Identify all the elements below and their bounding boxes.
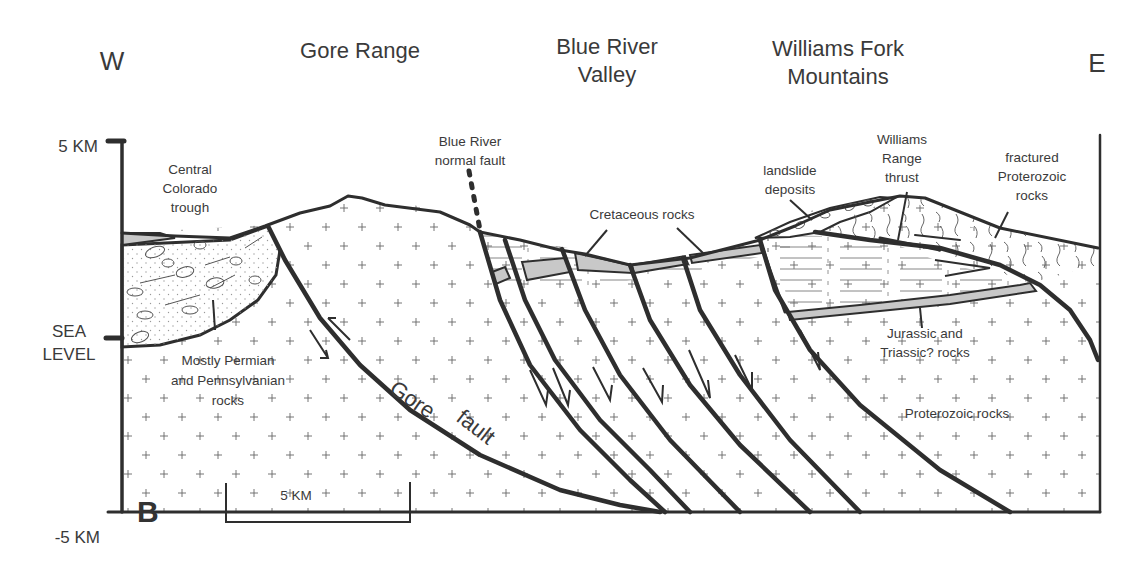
region-blue-river-valley-1: Blue River — [556, 34, 657, 59]
label-central-trough-3: trough — [171, 200, 209, 215]
region-blue-river-valley-2: Valley — [578, 62, 636, 87]
direction-east: E — [1088, 48, 1105, 78]
label-central-trough-1: Central — [168, 162, 212, 177]
label-blue-river-fault-1: Blue River — [439, 134, 502, 149]
label-permian-3: rocks — [212, 393, 245, 408]
label-landslide-2: deposits — [765, 182, 816, 197]
geologic-cross-section: W E Gore Range Blue River Valley William… — [0, 0, 1147, 575]
blue-river-fault-projection — [469, 171, 480, 230]
label-fractured-3: rocks — [1016, 188, 1049, 203]
label-permian-2: and Pennsylvanian — [171, 373, 285, 388]
scale-bar-label: 5 KM — [280, 488, 312, 503]
label-fractured-1: fractured — [1005, 150, 1058, 165]
label-fractured-2: Proterozoic — [998, 169, 1067, 184]
region-williams-fork-1: Williams Fork — [772, 36, 905, 61]
region-gore-range: Gore Range — [300, 38, 420, 63]
direction-west: W — [100, 46, 125, 76]
label-landslide-1: landslide — [763, 163, 816, 178]
region-williams-fork-2: Mountains — [787, 64, 889, 89]
label-proterozoic: Proterozoic rocks — [905, 406, 1010, 421]
label-cretaceous: Cretaceous rocks — [589, 207, 694, 222]
axis-bottom-label: -5 KM — [55, 528, 100, 547]
label-jurassic-1: Jurassic and — [887, 326, 963, 341]
label-central-trough-2: Colorado — [163, 181, 218, 196]
label-williams-thrust-2: Range — [882, 151, 922, 166]
label-williams-thrust-1: Williams — [877, 132, 927, 147]
axis-top-label: 5 KM — [58, 137, 98, 156]
label-permian-1: Mostly Permian — [181, 353, 274, 368]
label-blue-river-fault-2: normal fault — [435, 153, 506, 168]
panel-letter: B — [137, 495, 159, 528]
axis-sea-level-1: SEA — [52, 322, 87, 341]
axis-sea-level-2: LEVEL — [43, 345, 96, 364]
label-williams-thrust-3: thrust — [885, 170, 919, 185]
label-jurassic-2: Triassic? rocks — [880, 345, 970, 360]
